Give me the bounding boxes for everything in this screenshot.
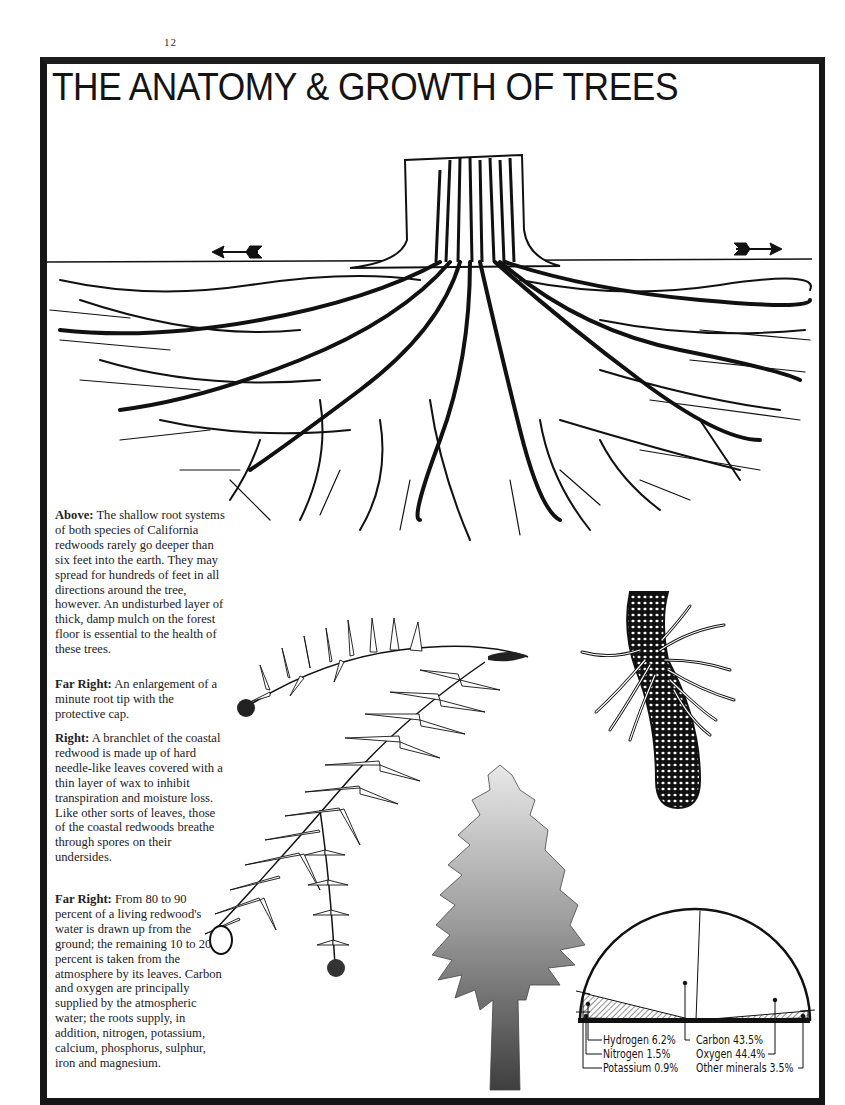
chart-label-oxygen: Oxygen 44.4% [696, 1047, 765, 1061]
chart-label-potassium: Potassium 0.9% [603, 1061, 678, 1075]
chart-label-hydrogen: Hydrogen 6.2% [603, 1033, 676, 1047]
chart-label-carbon: Carbon 43.5% [696, 1033, 763, 1047]
chart-label-other-minerals: Other minerals 3.5% [696, 1061, 794, 1075]
chart-label-nitrogen: Nitrogen 1.5% [603, 1047, 671, 1061]
